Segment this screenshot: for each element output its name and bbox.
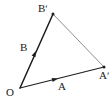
vector-diagram-canvas: [0, 0, 112, 104]
arrowheads-group: [32, 51, 58, 82]
arrowhead-vector-b: [32, 51, 36, 57]
edge-b-prime-to-a-prime: [53, 14, 104, 67]
label-origin: O: [6, 87, 14, 98]
label-vector-b: B: [20, 42, 27, 53]
dot-b-prime: [52, 13, 55, 16]
edges-group: [20, 14, 104, 88]
label-vector-a: A: [58, 81, 66, 92]
label-point-a-prime: Aʹ: [99, 70, 109, 81]
label-point-b-prime: Bʹ: [38, 3, 48, 14]
vector-diagram-figure: O A B Aʹ Bʹ: [0, 0, 112, 104]
